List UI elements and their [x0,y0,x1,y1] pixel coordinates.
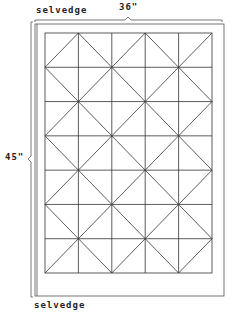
width-brace [35,17,222,22]
height-brace [28,22,33,297]
quilt-block-grid [45,33,212,273]
fabric-cutting-diagram [0,0,232,315]
